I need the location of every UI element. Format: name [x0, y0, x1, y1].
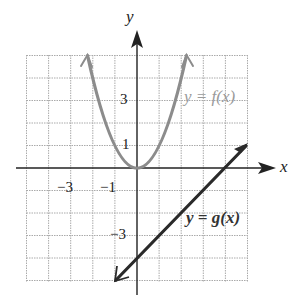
f-arrow-left-icon [81, 55, 92, 67]
y-tick-label-3: 3 [120, 92, 128, 107]
f-curve-label: y = f(x) [184, 88, 235, 105]
x-tick-label-neg3: −3 [57, 180, 73, 195]
graph-canvas [0, 0, 304, 307]
y-tick-label-1: 1 [122, 137, 130, 152]
axes [16, 30, 276, 295]
y-axis-label: y [126, 8, 134, 25]
x-axis-label: x [280, 158, 288, 175]
g-line-label: y = g(x) [186, 209, 240, 226]
x-tick-label-neg1: −1 [100, 180, 116, 195]
y-tick-label-neg3: −3 [110, 227, 126, 242]
f-arrow-right-icon [182, 55, 193, 67]
